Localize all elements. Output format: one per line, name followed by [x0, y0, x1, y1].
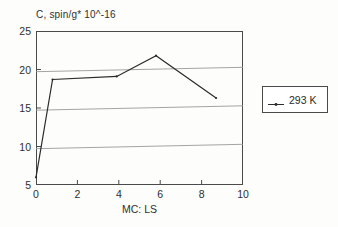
x-tick-label: 6 [157, 189, 163, 200]
legend-entry-label: 293 K [289, 94, 316, 106]
data-point [51, 78, 53, 80]
data-series-group [36, 31, 243, 185]
x-tick-label: 4 [116, 189, 122, 200]
data-point [116, 75, 118, 77]
plot-area: 510152025 0246810 [36, 31, 243, 185]
x-tick-label: 8 [199, 189, 205, 200]
x-tick-label: 10 [237, 189, 249, 200]
data-point [155, 55, 157, 57]
y-tick-label: 5 [25, 180, 31, 191]
x-tick-label: 2 [74, 189, 80, 200]
y-tick-label: 20 [19, 64, 31, 75]
legend-marker-svg [268, 100, 284, 109]
chart-legend: 293 K [262, 86, 328, 113]
x-axis-label: MC: LS [36, 203, 243, 215]
chart-figure: C, spin/g* 10^-16 510152025 0246810 MC: … [0, 0, 338, 227]
y-tick-label: 25 [19, 26, 31, 37]
y-tick-label: 10 [19, 141, 31, 152]
x-tick-label: 0 [33, 189, 39, 200]
data-point [215, 97, 217, 99]
legend-line-marker-icon [268, 95, 284, 104]
data-point [35, 176, 37, 178]
chart-title: C, spin/g* 10^-16 [36, 9, 116, 20]
y-tick-label: 15 [19, 103, 31, 114]
data-line [36, 56, 216, 178]
